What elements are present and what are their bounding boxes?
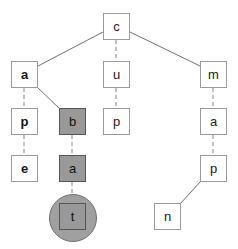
edge-root-to-n-a1 <box>38 32 103 66</box>
tree-node-n-p2[interactable]: p <box>103 108 130 135</box>
tree-node-n-u[interactable]: u <box>103 61 130 88</box>
tree-node-n-p1[interactable]: p <box>11 108 38 135</box>
edge-n-a1-to-n-b <box>36 86 60 109</box>
tree-node-n-p3[interactable]: p <box>200 155 227 182</box>
tree-node-label: b <box>69 115 76 128</box>
tree-node-n-e1[interactable]: e <box>11 155 38 182</box>
tree-node-label: u <box>113 68 120 81</box>
tree-node-label: p <box>210 162 217 175</box>
tree-node-label: c <box>113 20 120 33</box>
tree-node-label: n <box>164 210 171 223</box>
tree-diagram: capebatupmapn <box>0 0 238 249</box>
tree-node-n-t[interactable]: t <box>59 203 86 230</box>
tree-node-label: a <box>210 115 217 128</box>
tree-node-n-m[interactable]: m <box>200 61 227 88</box>
tree-node-label: p <box>113 115 120 128</box>
tree-node-label: a <box>69 162 76 175</box>
tree-node-root[interactable]: c <box>103 13 130 40</box>
tree-node-n-n[interactable]: n <box>154 203 181 230</box>
tree-node-n-b[interactable]: b <box>59 108 86 135</box>
tree-node-n-a3[interactable]: a <box>200 108 227 135</box>
tree-node-label: p <box>21 115 29 128</box>
tree-node-label: e <box>21 162 28 175</box>
edge-n-p3-to-n-n <box>180 181 201 204</box>
tree-node-label: t <box>71 210 75 223</box>
tree-node-label: m <box>208 68 219 81</box>
tree-node-n-a1[interactable]: a <box>11 61 38 88</box>
edge-root-to-n-m <box>130 32 200 66</box>
tree-node-label: a <box>21 68 28 81</box>
tree-node-n-a2[interactable]: a <box>59 155 86 182</box>
